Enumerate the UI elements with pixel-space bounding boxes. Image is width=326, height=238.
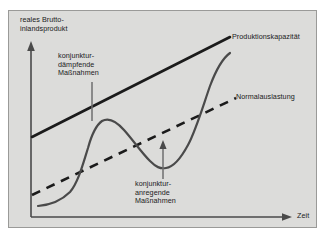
x-axis (31, 213, 292, 221)
x-axis-label: Zeit (297, 212, 309, 221)
series-label-produktionskapazitaet: Produktionskapazität (232, 33, 300, 42)
annotation-connector-anregende (159, 140, 166, 179)
business-cycle-diagram: reales Brutto- inlandsprodukt Zeit Produ… (0, 0, 326, 238)
y-axis (27, 41, 35, 217)
annotation-label-konjunkturdaempfende-massnahmen: konjunktur- dämpfende Maßnahmen (58, 52, 99, 78)
series-label-normalauslastung: Normalauslastung (236, 93, 295, 102)
y-axis-label: reales Brutto- inlandsprodukt (20, 16, 67, 33)
annotation-label-konjunkturanregende-massnahmen: konjunktur- anregende Maßnahmen (135, 180, 176, 206)
series-line-normalauslastung (32, 98, 236, 195)
